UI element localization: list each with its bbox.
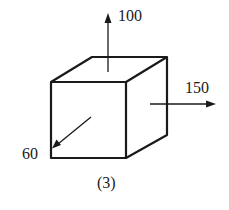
label-100: 100 [118, 8, 142, 24]
label-150: 150 [185, 80, 209, 96]
arrow-diagonal-icon [52, 140, 61, 149]
figure-caption: (3) [97, 175, 116, 191]
cube-stress-diagram: 100 150 60 (3) [0, 0, 229, 210]
arrow-diagonal-shaft [58, 117, 91, 144]
arrow-right-icon [206, 101, 216, 108]
label-60: 60 [22, 146, 38, 162]
arrow-up-icon [105, 13, 112, 23]
cube-front-face [51, 82, 126, 158]
cube-top-face [51, 57, 167, 82]
cube-right-face [126, 57, 167, 158]
